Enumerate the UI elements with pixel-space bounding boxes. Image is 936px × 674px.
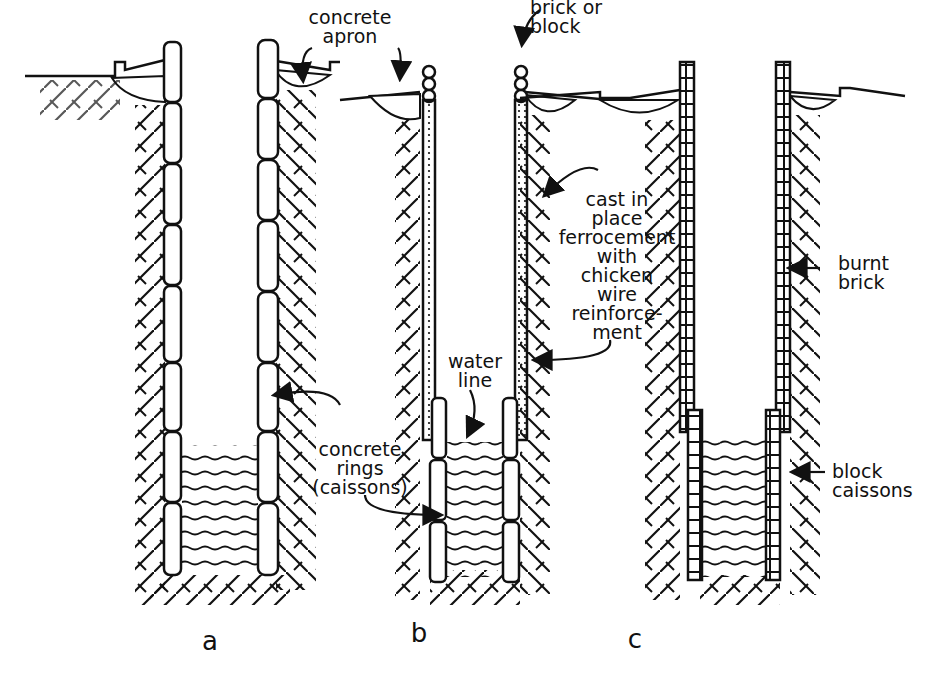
caption-c: c — [620, 626, 650, 652]
caption-b: b — [404, 620, 434, 646]
label-brick-or-block: brick or block — [530, 0, 620, 36]
well-a — [25, 40, 340, 605]
caption-a: a — [195, 628, 225, 654]
label-concrete-rings: concrete rings (caissons) — [300, 440, 420, 497]
label-water-line: water line — [440, 352, 510, 390]
label-block-caissons: block caissons — [832, 462, 932, 500]
well-diagram — [0, 0, 936, 674]
label-concrete-apron: concrete apron — [300, 8, 400, 46]
label-burnt-brick: burnt brick — [838, 254, 908, 292]
label-ferrocement: cast in place ferrocement with chicken w… — [552, 190, 682, 342]
